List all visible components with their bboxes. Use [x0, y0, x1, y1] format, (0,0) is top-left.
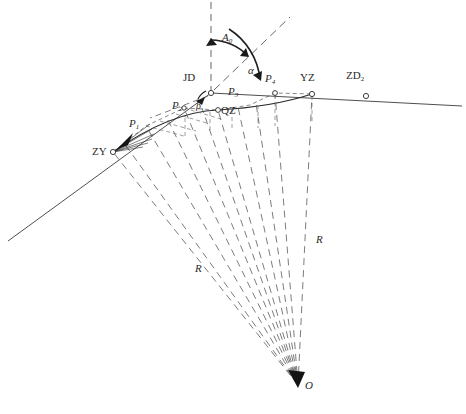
label-radius-left: R [195, 263, 202, 274]
label-O: O [305, 380, 313, 391]
marker-YZ[interactable] [309, 91, 314, 96]
label-P2: P2 [172, 100, 182, 113]
label-ZD2: ZD2 [346, 70, 364, 83]
label-ZY: ZY [92, 146, 107, 157]
label-P4: P4 [265, 73, 275, 86]
radius-line-5 [256, 103, 298, 385]
radial-lines [113, 93, 312, 385]
marker-ZY[interactable] [110, 149, 115, 154]
radius-line-ZY [113, 152, 298, 385]
radius-line-QZ [218, 110, 298, 385]
curve-arc-path [113, 94, 312, 152]
marker-JD[interactable] [208, 90, 213, 95]
label-angle-alpha: α [248, 65, 254, 76]
back-tangent-line [8, 93, 211, 241]
label-QZ: QZ [221, 105, 236, 116]
offset-tick-1 [146, 126, 184, 136]
diagram-canvas: ZY P1 P2 JD QZ P3 P4 YZ ZD2 O A0 α β R R [0, 0, 466, 414]
label-P1: P1 [129, 118, 139, 131]
arrowhead-alpha-end [253, 71, 262, 81]
label-JD: JD [183, 72, 195, 83]
label-YZ: YZ [300, 72, 315, 83]
arrowhead-A0-start [206, 38, 217, 46]
radius-line-P2 [184, 108, 298, 385]
arrowhead-O [288, 370, 305, 388]
label-angle-beta: β [196, 101, 201, 111]
radius-line-YZ [298, 94, 312, 385]
radius-line-P4 [275, 93, 298, 385]
marker-ZD2[interactable] [363, 93, 368, 98]
forward-tangent-line [211, 93, 462, 106]
curve-diagram-svg [0, 0, 466, 414]
marker-P4[interactable] [273, 91, 278, 96]
offset-tick-3 [176, 114, 210, 124]
marker-P2[interactable] [182, 106, 186, 110]
label-radius-right: R [316, 234, 323, 245]
point-markers [110, 90, 368, 154]
circular-curve [113, 94, 312, 152]
label-P3: P3 [228, 86, 238, 99]
label-angle-A0: A0 [222, 32, 232, 45]
marker-QZ[interactable] [216, 108, 221, 113]
centre-arrowhead [288, 370, 305, 388]
